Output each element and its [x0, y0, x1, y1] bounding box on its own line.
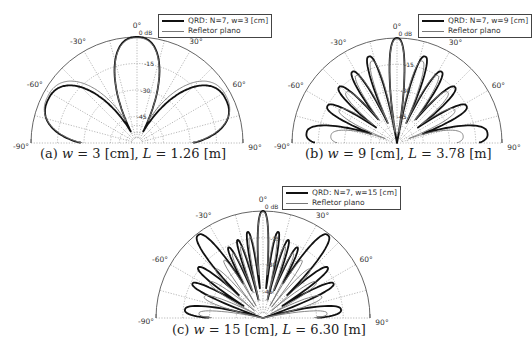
angle-tick-label: 60° — [233, 80, 247, 89]
legend-swatch-thick — [162, 20, 184, 22]
legend-c: QRD: N=7, w=15 [cm] Refletor plano — [282, 186, 401, 210]
caption-c: (c) w = 15 [cm], L = 6.30 [m] — [172, 322, 366, 337]
radial-tick-label: 0 dB — [265, 203, 279, 210]
legend-item-qrd: QRD: N=7, w=3 [cm] — [162, 16, 268, 26]
angle-tick-label: 90° — [248, 143, 262, 152]
legend-label: QRD: N=7, w=3 [cm] — [188, 16, 268, 26]
caption-var: L — [283, 322, 292, 337]
angle-tick-label: 90° — [507, 143, 521, 152]
angle-tick-label: 30° — [189, 37, 203, 46]
caption-text: = 3 [cm], — [73, 146, 143, 161]
radial-tick-label: -15 — [404, 61, 414, 68]
polar-grid — [160, 211, 367, 318]
angle-tick-label: 30° — [316, 211, 330, 220]
angle-tick-label: 60° — [492, 81, 506, 90]
caption-prefix: (b) — [305, 146, 328, 161]
radial-tick-label: 0 dB — [399, 30, 413, 37]
angle-tick-label: -90° — [138, 317, 154, 326]
radial-tick-label: -15 — [144, 60, 154, 67]
caption-text: = 1.26 [m] — [151, 146, 226, 161]
radial-tick-label: -45 — [397, 113, 407, 120]
angle-tick-label: -60° — [27, 80, 43, 89]
radial-tick-label: -45 — [137, 113, 147, 120]
legend-label: Refletor plano — [448, 26, 501, 36]
caption-text: = 9 [cm], — [339, 146, 409, 161]
radial-tick-label: -30 — [400, 87, 410, 94]
legend-item-qrd: QRD: N=7, w=9 [cm] — [422, 16, 528, 26]
angle-tick-label: -30° — [196, 211, 212, 220]
legend-a: QRD: N=7, w=3 [cm] Refletor plano — [158, 14, 272, 38]
angle-tick-label: 60° — [359, 255, 373, 264]
angle-tick-label: -60° — [288, 81, 304, 90]
polar-grid — [35, 37, 240, 143]
caption-b: (b) w = 9 [cm], L = 3.78 [m] — [305, 146, 492, 161]
caption-var: w — [194, 322, 205, 337]
caption-text: = 15 [cm], — [205, 322, 283, 337]
legend-item-flat: Refletor plano — [286, 198, 397, 208]
legend-item-flat: Refletor plano — [422, 26, 528, 36]
legend-swatch-thin — [286, 203, 308, 204]
angle-tick-label: -90° — [13, 142, 29, 151]
legend-swatch-thick — [422, 20, 444, 22]
angle-tick-label: 90° — [375, 318, 389, 327]
legend-label: QRD: N=7, w=9 [cm] — [448, 16, 528, 26]
legend-swatch-thick — [286, 192, 308, 194]
caption-text: = 6.30 [m] — [291, 322, 366, 337]
angle-tick-label: -30° — [70, 37, 86, 46]
caption-var: L — [408, 146, 417, 161]
legend-b: QRD: N=7, w=9 [cm] Refletor plano — [418, 14, 532, 38]
radial-tick-label: 0 dB — [139, 29, 153, 36]
legend-label: Refletor plano — [312, 198, 365, 208]
caption-var: w — [328, 146, 339, 161]
polar-grid — [296, 38, 499, 143]
caption-prefix: (a) — [40, 146, 62, 161]
radial-tick-label: -30 — [267, 261, 277, 268]
caption-text: = 3.78 [m] — [417, 146, 492, 161]
legend-label: QRD: N=7, w=15 [cm] — [312, 188, 397, 198]
caption-a: (a) w = 3 [cm], L = 1.26 [m] — [40, 146, 226, 161]
legend-swatch-thin — [422, 31, 444, 32]
angle-tick-label: -60° — [152, 255, 168, 264]
angle-tick-label: 30° — [449, 38, 463, 47]
caption-var: w — [62, 146, 73, 161]
radial-tick-label: -30 — [140, 87, 150, 94]
radial-tick-label: -15 — [270, 235, 280, 242]
radial-tick-label: -45 — [263, 288, 273, 295]
legend-item-flat: Refletor plano — [162, 26, 268, 36]
legend-label: Refletor plano — [188, 26, 241, 36]
legend-item-qrd: QRD: N=7, w=15 [cm] — [286, 188, 397, 198]
angle-tick-label: -30° — [331, 38, 347, 47]
angle-tick-label: -90° — [274, 142, 290, 151]
caption-prefix: (c) — [172, 322, 194, 337]
legend-swatch-thin — [162, 31, 184, 32]
